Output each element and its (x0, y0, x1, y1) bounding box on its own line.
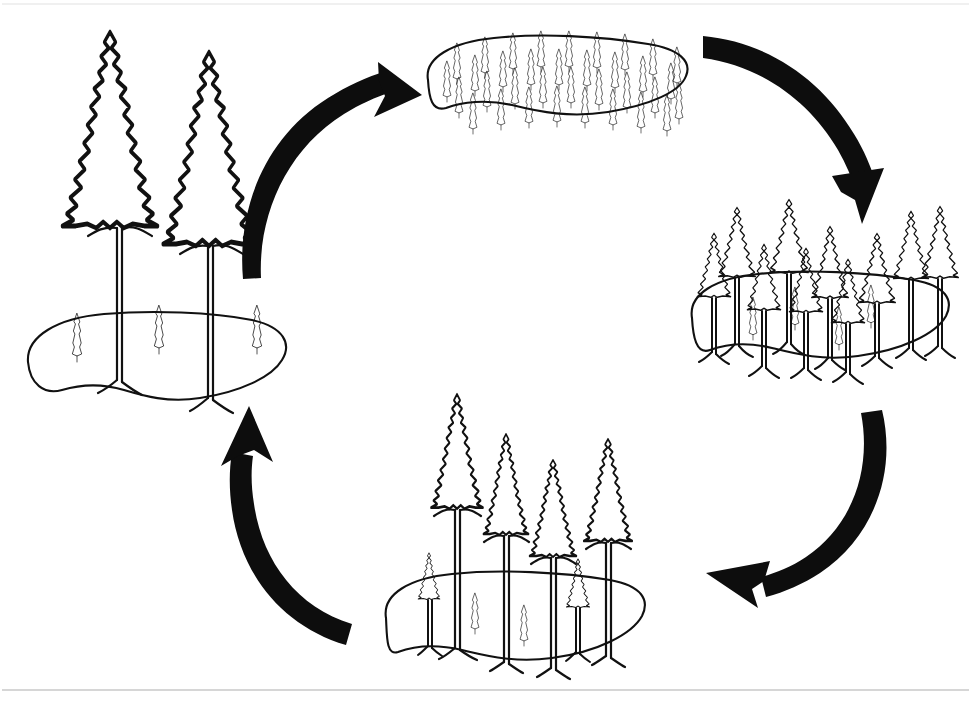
small-sapling (453, 43, 461, 84)
diagram-canvas (0, 0, 971, 701)
small-sapling (471, 593, 479, 634)
small-sapling (611, 52, 619, 93)
medium-tree (418, 553, 442, 656)
large-tree (483, 434, 529, 673)
small-sapling (565, 31, 573, 72)
stage-thicket (692, 200, 959, 384)
arrow-regeneration-to-thicket (703, 36, 884, 224)
small-sapling (72, 314, 81, 363)
medium-tree (719, 207, 756, 357)
arrow-thicket-to-understory (706, 410, 886, 608)
small-sapling (667, 63, 675, 104)
small-sapling (497, 89, 505, 130)
small-sapling (567, 67, 575, 108)
stage-understory (386, 394, 645, 679)
small-sapling (867, 285, 875, 328)
small-sapling (481, 37, 489, 78)
ground-patch (28, 312, 286, 400)
medium-tree (893, 211, 928, 360)
large-tree (431, 394, 483, 660)
ground-patch (692, 272, 949, 358)
small-sapling (637, 92, 645, 133)
small-sapling (455, 77, 463, 118)
medium-tree (747, 244, 781, 378)
large-tree (163, 52, 255, 413)
medium-tree (859, 233, 896, 368)
small-sapling (583, 50, 591, 91)
arrow-mature-to-regeneration (242, 62, 422, 279)
small-sapling (639, 56, 647, 97)
large-tree (529, 460, 576, 679)
small-sapling (483, 71, 491, 112)
small-sapling (499, 51, 507, 92)
small-sapling (520, 605, 528, 646)
forest-succession-cycle-figure (0, 0, 971, 701)
small-sapling (595, 69, 603, 110)
small-sapling (252, 306, 261, 355)
small-sapling (623, 72, 631, 113)
small-sapling (527, 49, 535, 90)
small-sapling (663, 95, 671, 136)
small-sapling (471, 55, 479, 96)
small-sapling (511, 68, 519, 109)
stage-regeneration (428, 31, 688, 136)
small-sapling (555, 49, 563, 90)
small-sapling (539, 67, 547, 108)
small-sapling (443, 61, 451, 102)
small-sapling (581, 87, 589, 128)
ground-patch (428, 36, 688, 115)
medium-tree (812, 226, 849, 370)
small-sapling (509, 33, 517, 74)
medium-tree (770, 200, 809, 355)
arrow-understory-to-mature (221, 406, 352, 645)
small-sapling (537, 31, 545, 72)
large-tree (62, 32, 158, 395)
small-sapling (553, 86, 561, 127)
small-sapling (469, 93, 477, 134)
